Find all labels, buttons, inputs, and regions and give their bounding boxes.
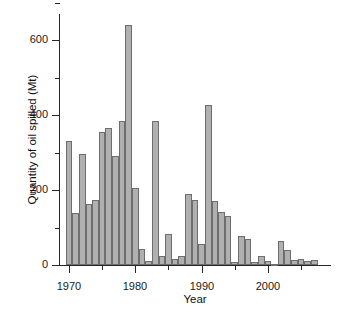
y-axis-tick-label: 600: [0, 34, 48, 45]
bar: [238, 236, 245, 265]
x-axis-title: Year: [59, 293, 331, 306]
y-axis-tick-label: 0: [0, 259, 48, 270]
bar: [152, 121, 159, 265]
bar: [192, 200, 199, 265]
y-axis-title: Quantity of oil spilled (Mt): [26, 40, 39, 240]
bar: [258, 256, 265, 265]
bar: [205, 105, 212, 266]
x-axis-tick-major: [135, 266, 136, 273]
bar: [72, 213, 79, 266]
bar: [271, 264, 278, 266]
bar: [112, 156, 119, 265]
x-axis-tick-label-text: 1980: [123, 280, 147, 292]
bar: [198, 244, 205, 265]
y-axis-tick-minor: [55, 153, 60, 154]
bar: [278, 241, 285, 265]
x-axis-tick-minor: [102, 266, 103, 270]
bar: [245, 239, 252, 265]
bar: [139, 249, 146, 266]
bar: [92, 200, 99, 265]
x-axis-tick-minor: [301, 266, 302, 270]
y-axis-tick-label: 400: [0, 109, 48, 120]
x-axis-tick-minor: [168, 266, 169, 270]
bar: [298, 259, 305, 265]
bar: [311, 260, 318, 265]
x-axis-tick-label: 1980: [105, 276, 165, 294]
x-axis-tick-label: 1990: [172, 276, 232, 294]
bar: [284, 250, 291, 265]
x-axis-tick-label-text: 2000: [256, 280, 280, 292]
bar: [86, 204, 93, 265]
bar: [291, 260, 298, 265]
plot-area: 0200400600 1970198019902000 Quantity of …: [0, 0, 341, 317]
x-axis-tick-label: 2000: [238, 276, 298, 294]
x-axis-tick-label-text: 1970: [57, 280, 81, 292]
bar: [304, 261, 311, 265]
bar: [79, 154, 86, 265]
y-axis-tick-major: [52, 190, 60, 191]
y-axis-tick-major: [52, 265, 60, 266]
y-axis-tick-minor: [55, 3, 60, 4]
bar: [231, 262, 238, 265]
bar: [125, 25, 132, 265]
y-axis-tick-label: 200: [0, 184, 48, 195]
bar: [185, 194, 192, 265]
x-axis-tick-minor: [235, 266, 236, 270]
bar: [105, 128, 112, 265]
bar: [132, 188, 139, 265]
y-axis-tick-minor: [55, 78, 60, 79]
bar: [225, 216, 232, 266]
y-axis-tick-minor: [55, 228, 60, 229]
y-axis-tick-label-text: 0: [2, 259, 48, 270]
bar: [178, 256, 185, 265]
oil-spill-bar-chart-figure: 0200400600 1970198019902000 Quantity of …: [0, 0, 341, 317]
bar: [172, 259, 179, 265]
bar: [119, 121, 126, 265]
bar: [218, 212, 225, 265]
bar: [165, 234, 172, 266]
bar: [145, 261, 152, 265]
bar: [212, 201, 219, 266]
bar: [99, 132, 106, 265]
y-axis-tick-major: [52, 115, 60, 116]
x-axis-tick-label: 1970: [39, 276, 99, 294]
bar: [265, 261, 272, 265]
bar: [159, 256, 166, 265]
x-axis-line: [59, 265, 331, 266]
x-axis-tick-label-text: 1990: [190, 280, 214, 292]
x-axis-tick-major: [268, 266, 269, 273]
bar: [251, 262, 258, 265]
x-axis-tick-major: [69, 266, 70, 273]
x-axis-tick-major: [202, 266, 203, 273]
y-axis-tick-major: [52, 40, 60, 41]
bar: [66, 141, 73, 266]
